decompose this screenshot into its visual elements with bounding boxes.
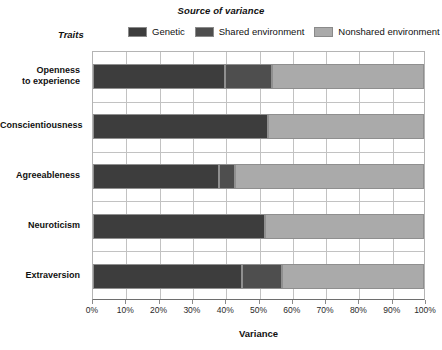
y-axis-label: Agreeableness xyxy=(0,170,86,181)
y-axis-labels: Opennessto experienceConscientiousnessAg… xyxy=(0,51,86,300)
legend-swatch-genetic xyxy=(128,27,147,37)
x-tick-label: 40% xyxy=(217,305,234,315)
x-tick xyxy=(292,300,293,304)
bar-segment xyxy=(235,164,424,189)
legend-item-nonshared: Nonshared environment xyxy=(314,27,439,37)
bar-segment xyxy=(219,164,236,189)
x-axis-ticks: 0%10%20%30%40%50%60%70%80%90%100% xyxy=(92,300,425,316)
x-tick xyxy=(259,300,260,304)
x-tick-label: 90% xyxy=(383,305,400,315)
x-axis-title: Variance xyxy=(92,328,425,339)
x-tick-label: 30% xyxy=(183,305,200,315)
y-axis-label: Neuroticism xyxy=(0,220,86,231)
y-axis-label-line: Extraversion xyxy=(0,270,80,281)
x-tick xyxy=(425,300,426,304)
bar-segment xyxy=(93,64,225,89)
legend-label-nonshared: Nonshared environment xyxy=(338,27,439,37)
x-tick xyxy=(225,300,226,304)
bar-segment xyxy=(225,64,271,89)
legend-label-genetic: Genetic xyxy=(152,27,185,37)
legend-swatch-nonshared xyxy=(314,27,333,37)
x-tick-label: 0% xyxy=(86,305,98,315)
y-axis-label-line: to experience xyxy=(0,76,80,87)
bars-layer xyxy=(93,52,424,299)
x-tick-label: 60% xyxy=(283,305,300,315)
bar-segment xyxy=(268,114,424,139)
bar-row xyxy=(93,164,424,189)
bar-segment xyxy=(265,214,424,239)
x-tick-label: 100% xyxy=(414,305,436,315)
variance-bar-chart: Source of variance Traits GeneticShared … xyxy=(0,0,442,350)
x-tick-label: 70% xyxy=(317,305,334,315)
legend-item-shared: Shared environment xyxy=(195,27,305,37)
bar-row xyxy=(93,214,424,239)
bar-segment xyxy=(93,264,242,289)
y-axis-label: Extraversion xyxy=(0,270,86,281)
bar-row xyxy=(93,64,424,89)
x-tick-label: 10% xyxy=(117,305,134,315)
x-tick xyxy=(159,300,160,304)
x-tick-label: 50% xyxy=(250,305,267,315)
y-axis-label: Opennessto experience xyxy=(0,65,86,86)
x-tick xyxy=(125,300,126,304)
x-tick xyxy=(358,300,359,304)
legend-item-genetic: Genetic xyxy=(128,27,185,37)
bar-segment xyxy=(93,214,265,239)
bar-row xyxy=(93,264,424,289)
legend-label-shared: Shared environment xyxy=(219,27,305,37)
y-axis-label: Conscientiousness xyxy=(0,120,86,131)
bar-segment xyxy=(242,264,282,289)
bar-segment xyxy=(93,114,268,139)
x-tick xyxy=(192,300,193,304)
x-tick-label: 80% xyxy=(350,305,367,315)
x-tick-label: 20% xyxy=(150,305,167,315)
traits-axis-label: Traits xyxy=(58,29,84,40)
chart-legend-title: Source of variance xyxy=(0,5,442,16)
y-axis-label-line: Agreeableness xyxy=(0,170,80,181)
y-axis-label-line: Openness xyxy=(0,65,80,76)
x-tick xyxy=(392,300,393,304)
y-axis-label-line: Neuroticism xyxy=(0,220,80,231)
x-tick xyxy=(92,300,93,304)
chart-legend: GeneticShared environmentNonshared envir… xyxy=(128,27,442,37)
bar-segment xyxy=(93,164,219,189)
bar-row xyxy=(93,114,424,139)
x-tick xyxy=(325,300,326,304)
y-axis-label-line: Conscientiousness xyxy=(0,120,80,131)
legend-swatch-shared xyxy=(195,27,214,37)
plot-area xyxy=(92,51,425,300)
bar-segment xyxy=(272,64,424,89)
bar-segment xyxy=(282,264,424,289)
